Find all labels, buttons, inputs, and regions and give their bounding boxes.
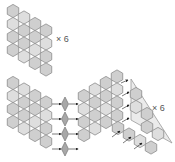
hexagon-tile — [7, 76, 18, 89]
hexagon-tile — [40, 24, 51, 37]
hexagon-tile — [152, 127, 163, 140]
hexagon-tile — [29, 115, 40, 128]
hexagon-tile — [40, 109, 51, 122]
diamond-shape — [62, 97, 69, 111]
hexagon-tile — [7, 115, 18, 128]
diamond-shape — [62, 142, 69, 156]
top-hex-cluster — [7, 4, 51, 76]
hexagon-tile — [18, 83, 29, 96]
hexagon-tile — [40, 63, 51, 76]
bottom-multiplier-label: × 6 — [152, 103, 165, 113]
hexagon-tile — [18, 50, 29, 63]
hexagon-tile — [89, 122, 100, 135]
diamond-shape — [62, 112, 69, 126]
hexagon-tile — [18, 109, 29, 122]
hexagon-tile — [141, 107, 152, 120]
bottom-left-hex-cluster — [7, 76, 51, 148]
hexagon-tile — [7, 30, 18, 43]
hexagon-tile — [7, 89, 18, 102]
hexagon-tile — [89, 83, 100, 96]
hexagon-tile — [18, 24, 29, 37]
hexagon-tile — [111, 109, 122, 122]
hexagon-tile — [18, 96, 29, 109]
hexagon-tile — [78, 115, 89, 128]
hexagon-tile — [40, 37, 51, 50]
hexagon-tile — [141, 120, 152, 133]
hexagon-tile — [40, 135, 51, 148]
hexagon-tile — [29, 128, 40, 141]
hexagon-tile — [145, 141, 156, 154]
diamond-shape — [62, 127, 69, 141]
hexagon-tile — [7, 17, 18, 30]
hexagon-tile — [18, 122, 29, 135]
tiling-diagram: × 6 × 6 — [0, 0, 175, 162]
hexagon-tile — [111, 83, 122, 96]
hexagon-tile — [130, 100, 141, 113]
hexagon-tile — [111, 70, 122, 83]
hexagon-tile — [7, 43, 18, 56]
hexagon-tile — [78, 102, 89, 115]
hexagon-tile — [7, 102, 18, 115]
diamond-column — [62, 97, 69, 156]
hexagon-tile — [18, 37, 29, 50]
hexagon-tile — [100, 115, 111, 128]
hexagon-tile — [89, 96, 100, 109]
hexagon-tile — [29, 43, 40, 56]
hexagon-tile — [89, 109, 100, 122]
hexagon-tile — [29, 89, 40, 102]
hexagon-tile — [100, 102, 111, 115]
hexagon-tile — [29, 102, 40, 115]
hexagon-tile — [29, 17, 40, 30]
hexagon-tile — [40, 122, 51, 135]
hexagon-tile — [100, 76, 111, 89]
hexagon-tile — [123, 128, 134, 141]
hexagon-tile — [29, 56, 40, 69]
hexagon-tile — [7, 4, 18, 17]
hexagon-tile — [111, 96, 122, 109]
hexagon-tile — [130, 87, 141, 100]
hexagon-tile — [40, 96, 51, 109]
hexagon-tile — [29, 30, 40, 43]
hexagon-tile — [78, 128, 89, 141]
hexagon-tile — [40, 50, 51, 63]
hexagon-tile — [18, 11, 29, 24]
hexagon-tile — [100, 89, 111, 102]
hexagon-tile — [134, 134, 145, 147]
hexagon-tile — [78, 89, 89, 102]
top-multiplier-label: × 6 — [56, 34, 69, 44]
